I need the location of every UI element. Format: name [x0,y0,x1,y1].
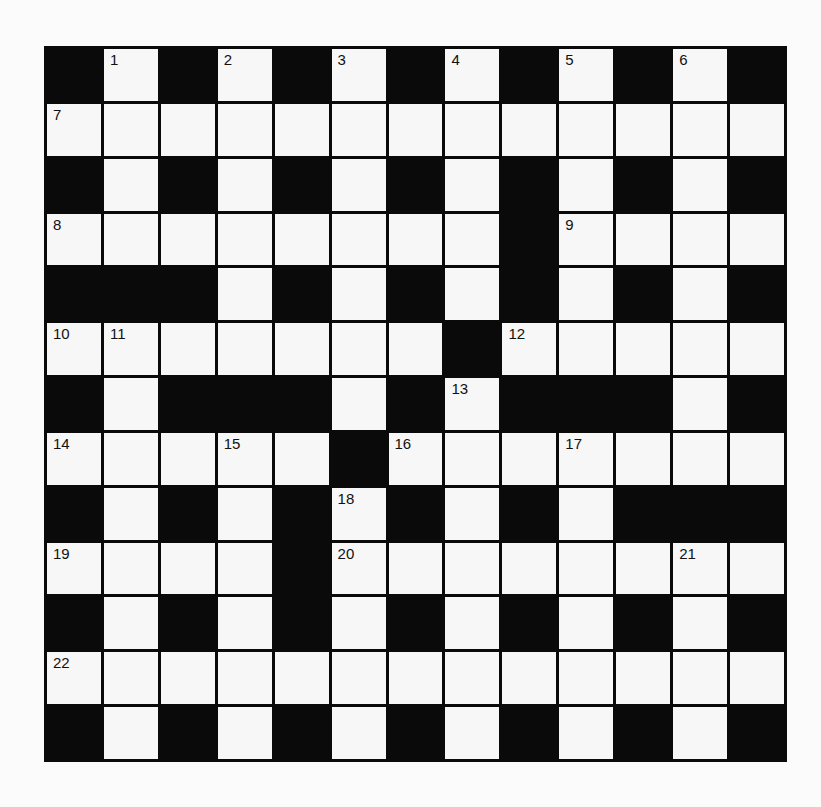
answer-cell[interactable] [559,652,613,704]
answer-cell[interactable] [445,104,499,156]
answer-cell[interactable] [218,159,272,211]
answer-cell[interactable] [104,104,158,156]
answer-cell[interactable] [218,707,272,759]
answer-cell[interactable] [559,104,613,156]
answer-cell[interactable]: 6 [673,49,727,101]
answer-cell[interactable] [332,268,386,320]
answer-cell[interactable] [104,433,158,485]
answer-cell[interactable] [616,104,670,156]
answer-cell[interactable] [673,268,727,320]
answer-cell[interactable] [389,652,443,704]
answer-cell[interactable]: 14 [47,433,101,485]
answer-cell[interactable] [161,323,215,375]
answer-cell[interactable]: 4 [445,49,499,101]
answer-cell[interactable] [673,433,727,485]
answer-cell[interactable] [161,543,215,595]
answer-cell[interactable] [104,159,158,211]
answer-cell[interactable]: 11 [104,323,158,375]
answer-cell[interactable] [389,543,443,595]
answer-cell[interactable] [332,652,386,704]
answer-cell[interactable] [673,597,727,649]
answer-cell[interactable]: 7 [47,104,101,156]
answer-cell[interactable] [389,214,443,266]
answer-cell[interactable] [218,268,272,320]
answer-cell[interactable] [502,104,556,156]
answer-cell[interactable] [104,543,158,595]
answer-cell[interactable] [730,543,784,595]
answer-cell[interactable] [616,433,670,485]
answer-cell[interactable] [445,268,499,320]
answer-cell[interactable] [502,543,556,595]
answer-cell[interactable]: 12 [502,323,556,375]
answer-cell[interactable]: 17 [559,433,613,485]
answer-cell[interactable] [730,433,784,485]
answer-cell[interactable]: 16 [389,433,443,485]
answer-cell[interactable] [616,323,670,375]
answer-cell[interactable] [559,488,613,540]
answer-cell[interactable] [332,104,386,156]
answer-cell[interactable] [332,323,386,375]
answer-cell[interactable] [332,597,386,649]
answer-cell[interactable] [445,433,499,485]
answer-cell[interactable]: 5 [559,49,613,101]
answer-cell[interactable] [673,378,727,430]
answer-cell[interactable]: 3 [332,49,386,101]
answer-cell[interactable] [104,597,158,649]
answer-cell[interactable] [445,159,499,211]
answer-cell[interactable] [161,433,215,485]
answer-cell[interactable] [559,268,613,320]
answer-cell[interactable] [445,543,499,595]
answer-cell[interactable]: 20 [332,543,386,595]
answer-cell[interactable] [104,707,158,759]
answer-cell[interactable] [673,323,727,375]
answer-cell[interactable]: 1 [104,49,158,101]
answer-cell[interactable] [445,652,499,704]
answer-cell[interactable]: 13 [445,378,499,430]
answer-cell[interactable] [218,597,272,649]
answer-cell[interactable] [730,652,784,704]
answer-cell[interactable] [616,652,670,704]
answer-cell[interactable] [332,707,386,759]
answer-cell[interactable]: 2 [218,49,272,101]
answer-cell[interactable] [559,323,613,375]
answer-cell[interactable] [445,597,499,649]
answer-cell[interactable] [389,323,443,375]
answer-cell[interactable] [445,214,499,266]
answer-cell[interactable] [616,214,670,266]
answer-cell[interactable]: 18 [332,488,386,540]
answer-cell[interactable] [161,652,215,704]
answer-cell[interactable] [559,543,613,595]
answer-cell[interactable] [161,214,215,266]
answer-cell[interactable] [275,652,329,704]
answer-cell[interactable]: 9 [559,214,613,266]
answer-cell[interactable] [559,597,613,649]
answer-cell[interactable]: 19 [47,543,101,595]
answer-cell[interactable] [502,652,556,704]
answer-cell[interactable] [673,707,727,759]
answer-cell[interactable] [502,433,556,485]
answer-cell[interactable] [275,433,329,485]
answer-cell[interactable]: 22 [47,652,101,704]
answer-cell[interactable] [445,488,499,540]
answer-cell[interactable] [332,159,386,211]
answer-cell[interactable] [218,104,272,156]
answer-cell[interactable]: 8 [47,214,101,266]
answer-cell[interactable] [730,214,784,266]
answer-cell[interactable] [559,159,613,211]
answer-cell[interactable] [161,104,215,156]
answer-cell[interactable] [332,214,386,266]
answer-cell[interactable] [332,378,386,430]
answer-cell[interactable] [275,104,329,156]
answer-cell[interactable] [218,543,272,595]
answer-cell[interactable] [730,104,784,156]
answer-cell[interactable]: 15 [218,433,272,485]
answer-cell[interactable] [389,104,443,156]
answer-cell[interactable] [673,652,727,704]
answer-cell[interactable] [104,214,158,266]
answer-cell[interactable] [673,214,727,266]
answer-cell[interactable] [616,543,670,595]
answer-cell[interactable] [275,214,329,266]
answer-cell[interactable] [673,159,727,211]
answer-cell[interactable] [559,707,613,759]
answer-cell[interactable] [218,488,272,540]
